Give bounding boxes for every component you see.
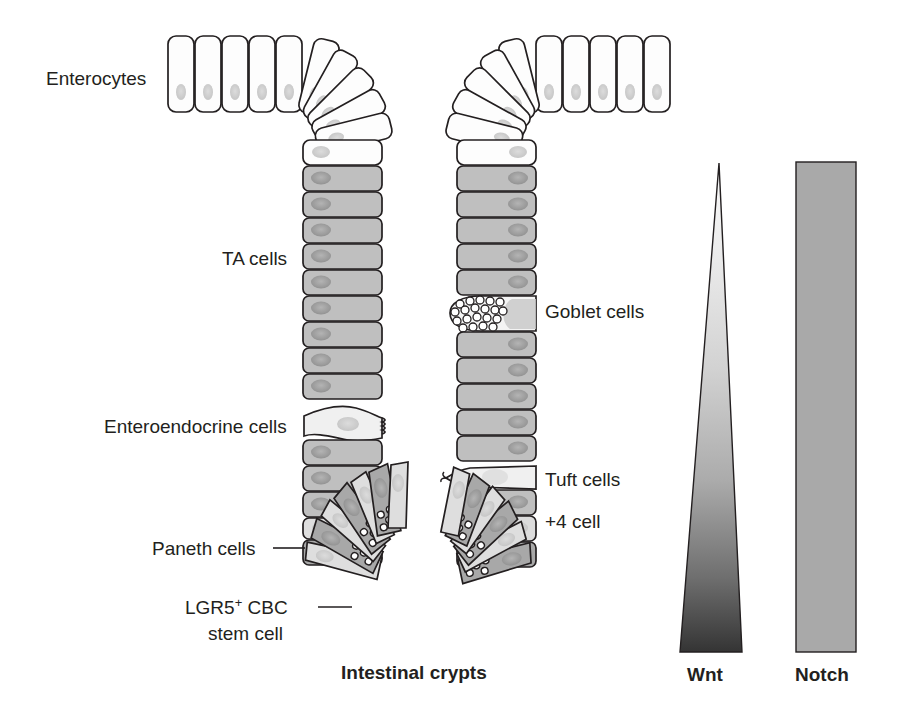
label-goblet-cells: Goblet cells	[545, 301, 644, 322]
label-paneth-cells: Paneth cells	[152, 538, 256, 559]
wnt-gradient-bar	[680, 163, 742, 652]
lgr5-superscript: +	[235, 595, 243, 610]
ta-cell	[303, 440, 382, 465]
stem-cell	[388, 462, 408, 528]
ta-cell	[303, 218, 382, 243]
enterocyte-cell	[195, 36, 221, 112]
notch-gradient-bar	[796, 162, 856, 652]
ta-cell	[457, 384, 536, 409]
enterocyte-cell	[168, 36, 194, 112]
intestinal-crypt-diagram: Enterocytes TA cells Goblet cells Entero…	[0, 0, 900, 712]
ta-cell	[457, 270, 536, 295]
enterocyte-cell	[222, 36, 248, 112]
ta-cell	[303, 348, 382, 373]
enterocyte-cell	[563, 36, 589, 112]
label-ta-cells: TA cells	[222, 248, 287, 269]
ta-cell	[457, 218, 536, 243]
ta-cell	[457, 192, 536, 217]
ta-cell	[457, 332, 536, 357]
ta-cell	[303, 166, 382, 191]
ta-cell	[457, 244, 536, 269]
figure-root: Enterocytes TA cells Goblet cells Entero…	[0, 0, 900, 712]
lgr5-rest: CBC	[242, 597, 287, 618]
label-tuft-cells: Tuft cells	[545, 469, 620, 490]
enterocyte-cell	[536, 36, 562, 112]
lgr5-line2: stem cell	[208, 623, 283, 644]
enterocyte-cell	[249, 36, 275, 112]
enterocyte-cell	[276, 36, 302, 112]
left-villus-enterocytes	[168, 36, 394, 165]
ta-cell	[303, 270, 382, 295]
ta-cell	[303, 322, 382, 347]
ta-cell	[303, 192, 382, 217]
ta-cell	[303, 296, 382, 321]
enterocyte-cell	[457, 140, 536, 165]
enterocyte-cell	[644, 36, 670, 112]
ta-cell	[303, 374, 382, 399]
lgr5-main: LGR5	[185, 597, 235, 618]
enterocyte-cell	[617, 36, 643, 112]
label-enteroendocrine-cells: Enteroendocrine cells	[104, 416, 287, 437]
ta-cell	[457, 436, 536, 461]
goblet-cell	[450, 296, 536, 332]
label-notch: Notch	[795, 664, 849, 685]
ta-cell	[457, 410, 536, 435]
right-villus-enterocytes	[444, 36, 670, 165]
ta-cell	[457, 358, 536, 383]
svg-text:LGR5+ CBC: LGR5+ CBC	[185, 595, 288, 618]
enteroendocrine-cell	[304, 406, 385, 440]
enterocyte-cell	[303, 140, 382, 165]
caption-intestinal-crypts: Intestinal crypts	[341, 662, 487, 683]
enterocyte-cell	[590, 36, 616, 112]
ta-cell	[303, 244, 382, 269]
label-plus-four-cell: +4 cell	[545, 511, 600, 532]
label-wnt: Wnt	[687, 664, 724, 685]
ta-cell	[457, 166, 536, 191]
label-enterocytes: Enterocytes	[46, 68, 146, 89]
label-lgr5-cbc-stem-cell: LGR5+ CBC stem cell	[185, 595, 288, 644]
